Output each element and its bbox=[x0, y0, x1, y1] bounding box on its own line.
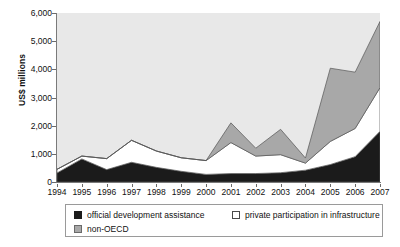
x-axis-tick-label: 1994 bbox=[48, 187, 67, 197]
y-axis-tick-label: 4,000 bbox=[12, 64, 52, 74]
x-axis-tick-mark bbox=[181, 184, 182, 187]
x-axis-tick-mark bbox=[231, 184, 232, 187]
legend-item-private-participation-in-infrastructure: private participation in infrastructure bbox=[232, 210, 380, 220]
y-axis-tick-label: 2,000 bbox=[12, 121, 52, 131]
y-axis-tick-mark bbox=[52, 154, 56, 155]
legend-label-oda: official development assistance bbox=[87, 210, 205, 220]
x-axis-tick-labels: 1994199519961997199819992000200120022003… bbox=[57, 184, 380, 200]
x-axis-tick-mark bbox=[380, 184, 381, 187]
y-axis-tick-mark bbox=[52, 69, 56, 70]
x-axis-tick-label: 2000 bbox=[197, 187, 216, 197]
x-axis-tick-mark bbox=[107, 184, 108, 187]
x-axis-tick-mark bbox=[281, 184, 282, 187]
y-axis-tick-label: 5,000 bbox=[12, 36, 52, 46]
x-axis-tick-label: 1995 bbox=[72, 187, 91, 197]
legend-label-ppi: private participation in infrastructure bbox=[245, 210, 380, 220]
x-axis-tick-mark bbox=[305, 184, 306, 187]
x-axis-tick-mark bbox=[156, 184, 157, 187]
y-axis-tick-mark bbox=[52, 13, 56, 14]
x-axis-tick-label: 2002 bbox=[246, 187, 265, 197]
legend-label-non-oecd: non-OECD bbox=[87, 224, 129, 234]
x-axis-tick-mark bbox=[206, 184, 207, 187]
y-axis-tick-mark bbox=[52, 126, 56, 127]
legend-swatch-nonoecd-icon bbox=[74, 225, 82, 233]
x-axis-tick-label: 1999 bbox=[172, 187, 191, 197]
x-axis-tick-label: 2003 bbox=[271, 187, 290, 197]
x-axis-tick-label: 2005 bbox=[321, 187, 340, 197]
legend-item-non-oecd: non-OECD bbox=[74, 224, 129, 234]
plot-area bbox=[57, 13, 380, 182]
x-axis-tick-label: 2006 bbox=[346, 187, 365, 197]
y-axis-tick-labels: 01,0002,0003,0004,0005,0006,000 bbox=[8, 0, 52, 247]
x-axis-tick-mark bbox=[355, 184, 356, 187]
y-axis-tick-mark bbox=[52, 98, 56, 99]
x-axis-tick-mark bbox=[57, 184, 58, 187]
x-axis-line bbox=[56, 182, 381, 183]
x-axis-tick-label: 1998 bbox=[147, 187, 166, 197]
stacked-area-series bbox=[57, 13, 380, 182]
y-axis-tick-label: 3,000 bbox=[12, 93, 52, 103]
legend-item-official-development-assistance: official development assistance bbox=[74, 210, 205, 220]
x-axis-tick-label: 1996 bbox=[97, 187, 116, 197]
x-axis-tick-label: 2007 bbox=[371, 187, 390, 197]
x-axis-tick-label: 2004 bbox=[296, 187, 315, 197]
chart-figure: US$ millions 01,0002,0003,0004,0005,0006… bbox=[0, 0, 400, 247]
legend-swatch-ppi-icon bbox=[232, 211, 240, 219]
y-axis-tick-label: 1,000 bbox=[12, 149, 52, 159]
y-axis-tick-mark bbox=[52, 182, 56, 183]
x-axis-tick-mark bbox=[132, 184, 133, 187]
x-axis-tick-mark bbox=[256, 184, 257, 187]
x-axis-tick-mark bbox=[330, 184, 331, 187]
x-axis-tick-label: 1997 bbox=[122, 187, 141, 197]
y-axis-tick-label: 0 bbox=[12, 177, 52, 187]
y-axis-tick-label: 6,000 bbox=[12, 8, 52, 18]
x-axis-tick-mark bbox=[82, 184, 83, 187]
chart-legend: official development assistance private … bbox=[65, 204, 383, 237]
legend-swatch-oda-icon bbox=[74, 211, 82, 219]
x-axis-tick-label: 2001 bbox=[221, 187, 240, 197]
y-axis-tick-mark bbox=[52, 41, 56, 42]
